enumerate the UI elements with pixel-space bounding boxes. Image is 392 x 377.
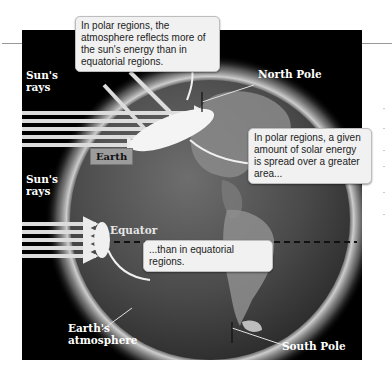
callout-polar-reflect: In polar regions, the atmosphere reflect… (75, 16, 220, 72)
margin-mark (383, 214, 385, 215)
suns-rays-label-top: Sun's rays (26, 69, 66, 93)
suns-rays-label-bottom: Sun's rays (26, 173, 66, 197)
diagram-panel: Sun's rays Sun's rays North Pole South P… (22, 30, 362, 360)
top-rule-right (362, 43, 392, 44)
callout-equatorial: ...than in equatorial regions. (143, 240, 273, 272)
margin-mark (383, 150, 385, 151)
margin-mark (383, 108, 385, 109)
margin-mark (383, 192, 385, 193)
north-pole-label: North Pole (258, 68, 322, 80)
equatorial-energy-patch (94, 222, 110, 258)
top-rule-left (2, 43, 22, 44)
earths-atmosphere-label: Earth's atmosphere (68, 322, 138, 346)
margin-mark (383, 166, 385, 167)
equator-label: Equator (110, 224, 157, 236)
earth-label: Earth (90, 148, 133, 165)
callout-polar-spread: In polar regions, a given amount of sola… (248, 128, 372, 184)
margin-mark (383, 128, 385, 129)
south-pole-label: South Pole (282, 340, 346, 352)
